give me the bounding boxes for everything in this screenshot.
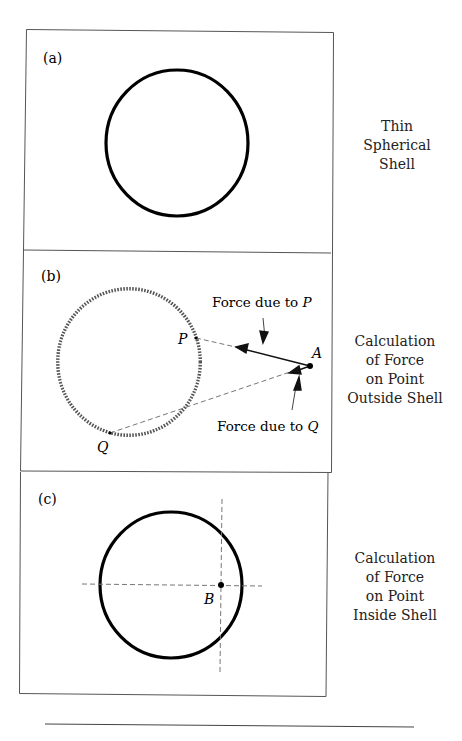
point-a-dot bbox=[307, 363, 313, 369]
point-b-label: B bbox=[203, 591, 214, 607]
point-p-label: P bbox=[177, 331, 188, 347]
force-due-to-q-label: Force due to Q bbox=[217, 418, 319, 434]
panel-a-label: (a) bbox=[43, 50, 62, 66]
force-due-to-p-label: Force due to P bbox=[212, 294, 313, 310]
arrow-head-p bbox=[236, 344, 248, 353]
point-p-dot bbox=[194, 336, 197, 339]
shell-inner-gap bbox=[60, 291, 198, 433]
pointer-q bbox=[294, 377, 301, 390]
caption-line: Calculation bbox=[345, 332, 445, 351]
caption-line: on Point bbox=[345, 370, 445, 389]
caption-b: Calculation of Force on Point Outside Sh… bbox=[345, 332, 445, 408]
arrow-head-q bbox=[289, 366, 301, 374]
caption-line: Calculation bbox=[345, 549, 445, 568]
pointer-p bbox=[260, 331, 268, 343]
panel-b-label: (b) bbox=[41, 268, 61, 284]
particulate-shell-circle bbox=[58, 289, 200, 435]
panel-c-label: (c) bbox=[38, 491, 57, 507]
point-q-dot bbox=[108, 431, 111, 434]
thin-shell-circle bbox=[106, 70, 248, 216]
caption-line: of Force bbox=[345, 351, 445, 370]
caption-c: Calculation of Force on Point Inside She… bbox=[345, 549, 445, 625]
point-q-label: Q bbox=[97, 439, 109, 455]
caption-line: of Force bbox=[345, 568, 445, 587]
caption-line: on Point bbox=[345, 587, 445, 606]
force-arrows bbox=[236, 318, 310, 410]
caption-line: Spherical bbox=[352, 136, 442, 155]
point-b-dot bbox=[218, 582, 224, 588]
caption-a: Thin Spherical Shell bbox=[352, 117, 442, 174]
caption-line: Shell bbox=[352, 155, 442, 174]
axis-lines bbox=[82, 499, 262, 672]
caption-line: Thin bbox=[352, 117, 442, 136]
point-a-label: A bbox=[310, 345, 322, 361]
caption-line: Inside Shell bbox=[345, 606, 445, 625]
caption-line: Outside Shell bbox=[345, 389, 445, 408]
